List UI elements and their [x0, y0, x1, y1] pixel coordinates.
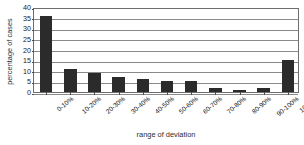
bar[interactable] — [112, 77, 125, 92]
x-tick-label: 60-70% — [201, 95, 223, 115]
y-axis-title-label: percentage of cases — [5, 18, 14, 85]
x-tick-label: 30-40% — [129, 95, 151, 115]
plot-area — [33, 8, 299, 93]
x-axis-tick-labels: 0-10%10-20%20-30%30-40%40-50%50-60%60-70… — [33, 95, 299, 125]
bar-slot[interactable] — [131, 9, 155, 92]
bars-layer — [34, 9, 298, 92]
y-tick-label: 20 — [23, 47, 31, 54]
x-tick-label: 80-90% — [250, 95, 272, 115]
y-tick-label: 15 — [23, 58, 31, 65]
bar[interactable] — [161, 81, 174, 92]
x-tick-label: 70-80% — [226, 95, 248, 115]
bar-slot[interactable] — [203, 9, 227, 92]
bar-slot[interactable] — [155, 9, 179, 92]
bar-slot[interactable] — [252, 9, 276, 92]
x-tick-label: 100%+ — [298, 95, 304, 114]
y-tick-label: 5 — [27, 79, 31, 86]
bar-slot[interactable] — [34, 9, 58, 92]
bar[interactable] — [282, 60, 295, 92]
x-tick-label: 40-50% — [153, 95, 175, 115]
x-tick-label: 10-20% — [81, 95, 103, 115]
y-tick-label: 35 — [23, 15, 31, 22]
bar-slot[interactable] — [276, 9, 300, 92]
x-axis-title: range of deviation — [33, 130, 299, 139]
bar-slot[interactable] — [82, 9, 106, 92]
y-tick-label: 40 — [23, 4, 31, 11]
y-tick-label: 30 — [23, 26, 31, 33]
x-tick-label: 50-60% — [177, 95, 199, 115]
y-tick-label: 25 — [23, 36, 31, 43]
bar[interactable] — [88, 73, 101, 92]
bar-slot[interactable] — [107, 9, 131, 92]
bar-slot[interactable] — [58, 9, 82, 92]
bar-chart-figure: percentage of cases 0510152025303540 0-1… — [0, 0, 304, 145]
x-tick-label: 20-30% — [105, 95, 127, 115]
y-tick-label: 0 — [27, 89, 31, 96]
y-axis-title: percentage of cases — [0, 0, 18, 103]
bar[interactable] — [185, 81, 198, 92]
bar-slot[interactable] — [179, 9, 203, 92]
bar[interactable] — [40, 16, 53, 93]
bar[interactable] — [64, 69, 77, 92]
y-tick-label: 10 — [23, 68, 31, 75]
x-tick-label: 0-10% — [56, 95, 75, 113]
bar[interactable] — [137, 79, 150, 92]
bar-slot[interactable] — [227, 9, 251, 92]
x-tick-label: 90-100% — [275, 95, 300, 117]
y-axis-tick-labels: 0510152025303540 — [17, 8, 32, 93]
